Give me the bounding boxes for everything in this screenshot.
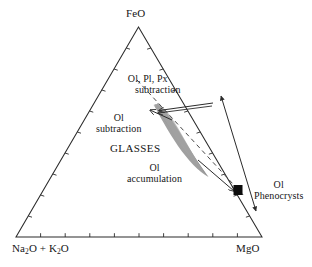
ol-phenocrysts-label: Ol Phenocrysts: [254, 180, 303, 202]
ol-accumulation-line2: accumulation: [127, 174, 182, 185]
ol-pl-px-subtraction-label: Ol, Pl, Px subtraction: [115, 74, 181, 96]
ol-subtraction-label: Ol subtraction: [96, 113, 142, 135]
na2o-k2o-vertex-label: Na2O + K2O: [12, 243, 69, 256]
ol-accumulation-label: Ol accumulation: [127, 163, 182, 185]
mgo-vertex-label: MgO: [236, 243, 260, 255]
ol-subtraction-line2: subtraction: [96, 124, 142, 135]
feo-vertex-label: FeO: [126, 8, 145, 20]
ternary-plot-canvas: [0, 0, 312, 267]
ol-pl-px-subtraction-line2: subtraction: [135, 85, 181, 96]
ol-phenocrysts-line2: Phenocrysts: [254, 191, 303, 202]
na2o-k2o-suffix: O: [61, 242, 69, 254]
glasses-field-label: GLASSES: [110, 143, 160, 155]
na2o-k2o-prefix: Na: [12, 242, 25, 254]
ternary-diagram-figure: FeO Na2O + K2O MgO Ol, Pl, Px subtractio…: [0, 0, 312, 267]
na2o-k2o-mid: O + K: [29, 242, 57, 254]
ol-phenocrysts-marker: [234, 185, 243, 195]
